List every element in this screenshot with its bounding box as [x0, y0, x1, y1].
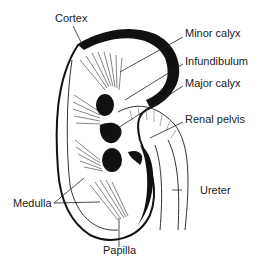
kidney-illustration: [0, 0, 261, 264]
label-ureter: Ureter: [200, 184, 231, 196]
label-cortex: Cortex: [55, 12, 87, 24]
label-infundibulum: Infundibulum: [185, 55, 248, 67]
label-minor-calyx: Minor calyx: [185, 27, 241, 39]
label-papilla: Papilla: [103, 244, 136, 256]
label-major-calyx: Major calyx: [185, 77, 241, 89]
label-medulla: Medulla: [13, 197, 52, 209]
label-renal-pelvis: Renal pelvis: [185, 113, 245, 125]
ureter-shape: [155, 140, 179, 230]
minor-calyx-shape: [96, 94, 114, 116]
